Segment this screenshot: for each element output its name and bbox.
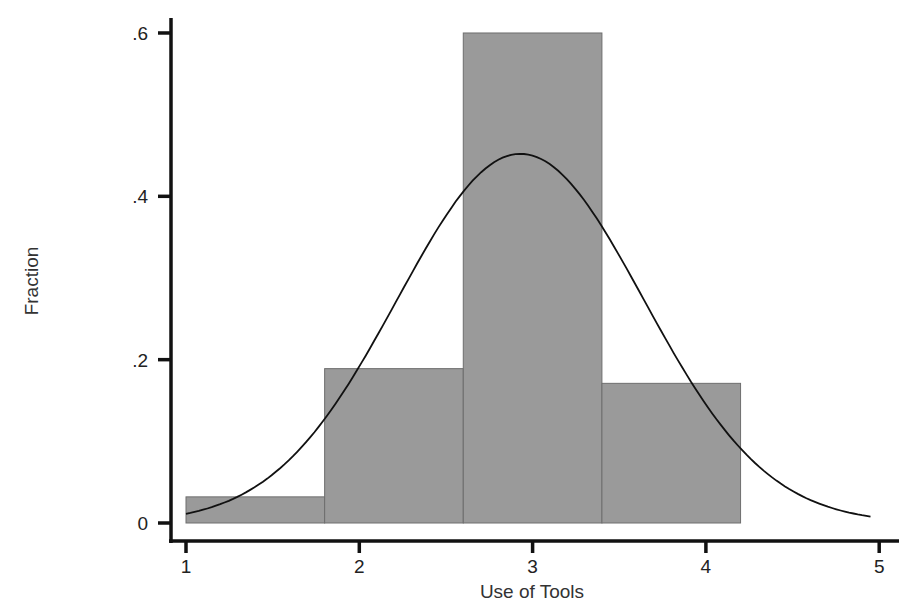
x-tick-label: 1 — [181, 556, 192, 577]
x-tick-label: 2 — [354, 556, 365, 577]
y-tick-label: .4 — [132, 186, 148, 207]
x-axis-title: Use of Tools — [480, 581, 584, 602]
histogram-bars — [186, 33, 741, 523]
y-axis-ticks: 0.2.4.6 — [132, 23, 171, 534]
histogram-chart: 0.2.4.6 12345 Fraction Use of Tools — [0, 0, 915, 615]
x-tick-label: 5 — [874, 556, 885, 577]
histogram-bar — [186, 497, 325, 523]
y-tick-label: .6 — [132, 23, 148, 44]
histogram-bar — [602, 383, 741, 523]
x-tick-label: 3 — [527, 556, 538, 577]
histogram-bar — [463, 33, 602, 523]
y-axis-title: Fraction — [21, 247, 42, 316]
x-axis-ticks: 12345 — [181, 541, 885, 577]
histogram-bar — [325, 369, 464, 523]
y-tick-label: 0 — [137, 513, 148, 534]
y-tick-label: .2 — [132, 350, 148, 371]
x-tick-label: 4 — [701, 556, 712, 577]
